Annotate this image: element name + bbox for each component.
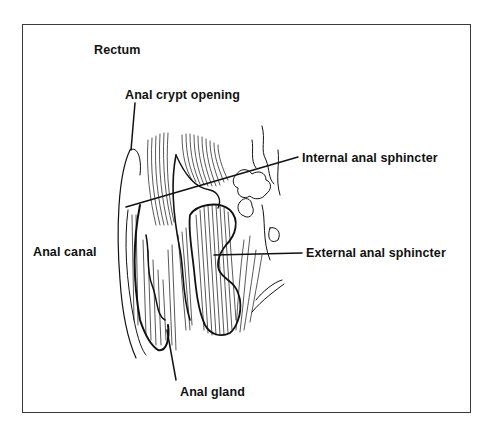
label-anal-canal: Anal canal <box>33 245 97 259</box>
label-anal-gland: Anal gland <box>180 385 245 399</box>
label-external-anal-sphincter: External anal sphincter <box>306 246 446 260</box>
label-anal-crypt-opening: Anal crypt opening <box>125 88 240 102</box>
label-internal-anal-sphincter: Internal anal sphincter <box>302 151 438 165</box>
anal-canal-wall <box>118 150 136 358</box>
leader-anal-crypt-opening <box>131 103 135 150</box>
label-rectum: Rectum <box>94 43 140 57</box>
anatomy-illustration <box>0 0 486 437</box>
